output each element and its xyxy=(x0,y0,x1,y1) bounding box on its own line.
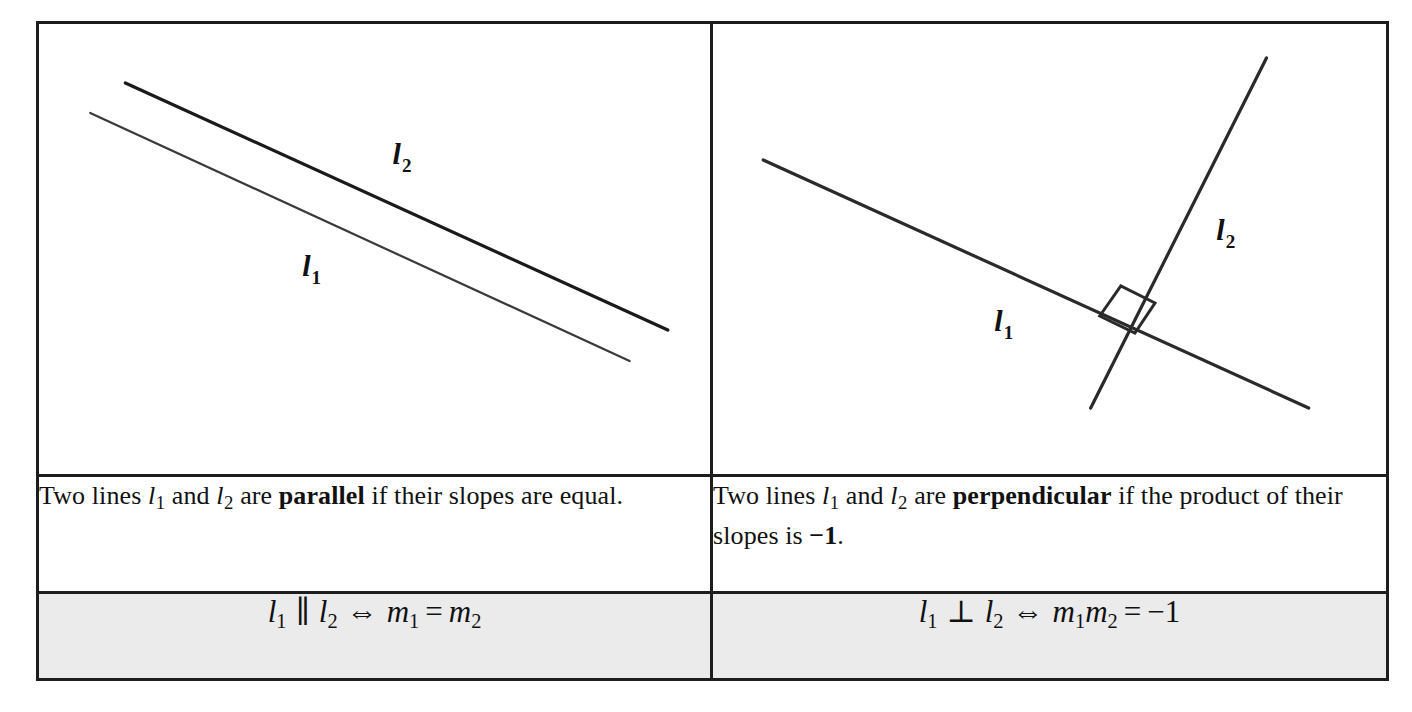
description-mid-1: and xyxy=(165,481,216,510)
description-var-l2: l2 xyxy=(890,481,907,510)
formula-right-line-sub: 2 xyxy=(993,610,1003,632)
formula-right-line: l2 xyxy=(319,594,338,629)
description-term-parallel: parallel xyxy=(279,481,365,510)
formula-equivalence-symbol: ⇔ xyxy=(338,594,387,629)
parallel-formula-cell: l1∥l2⇔m1=m2 xyxy=(38,593,712,680)
table-row-descriptions: Two lines l1 and l2 are parallel if thei… xyxy=(38,476,1388,593)
formula-left-line-sub: 1 xyxy=(927,610,937,632)
formula-slope-m1-sub: 1 xyxy=(409,610,419,632)
formula-slope-m2-base: m xyxy=(449,594,471,629)
formula-right-line-sub: 2 xyxy=(327,610,337,632)
formula-slope-m1-base: m xyxy=(387,594,409,629)
formula-slope-m2-sub: 2 xyxy=(471,610,481,632)
description-prefix: Two lines xyxy=(713,481,822,510)
line-label-l1: l1 xyxy=(994,304,1013,343)
description-var-l2-base: l xyxy=(890,481,897,510)
line-label-l1: l1 xyxy=(302,249,321,288)
formula-left-line-sub: 1 xyxy=(276,610,286,632)
formula-left-line-base: l xyxy=(268,594,277,629)
line-l1 xyxy=(763,160,1308,408)
formula-equivalence-symbol: ⇔ xyxy=(1004,594,1053,629)
perpendicular-formula-cell: l1⊥l2⇔m1m2=−1 xyxy=(712,593,1388,680)
formula-left-line: l1 xyxy=(919,594,938,629)
description-suffix: if their slopes are equal. xyxy=(365,481,623,510)
line-l2 xyxy=(125,83,667,330)
perpendicular-lines-figure-cell: l2 l1 xyxy=(712,23,1388,476)
line-l1 xyxy=(90,113,629,361)
parallel-lines-diagram: l2 l1 xyxy=(39,24,710,474)
description-var-l1-sub: 1 xyxy=(829,492,839,513)
formula-equals-symbol: = xyxy=(419,594,448,629)
description-var-l2-sub: 2 xyxy=(224,492,234,513)
parallel-perpendicular-comparison-table: l2 l1 l2 l1 Two lines xyxy=(36,21,1389,681)
description-mid-1: and xyxy=(839,481,890,510)
formula-equals-symbol: = xyxy=(1118,594,1147,629)
formula-slope-m2: m2 xyxy=(449,594,482,629)
description-var-l2-sub: 2 xyxy=(898,492,908,513)
perpendicular-description-text: Two lines l1 and l2 are perpendicular if… xyxy=(713,481,1343,550)
perpendicular-lines-diagram: l2 l1 xyxy=(713,24,1386,474)
page-root: l2 l1 l2 l1 Two lines xyxy=(0,0,1412,712)
parallel-formula: l1∥l2⇔m1=m2 xyxy=(39,594,710,632)
formula-slope-m1: m1 xyxy=(1053,594,1086,629)
formula-right-line: l2 xyxy=(985,594,1004,629)
line-label-l2: l2 xyxy=(393,137,412,176)
formula-left-line: l1 xyxy=(268,594,287,629)
parallel-lines-figure-cell: l2 l1 xyxy=(38,23,712,476)
formula-slope-m1-base: m xyxy=(1053,594,1075,629)
description-var-l2-base: l xyxy=(216,481,223,510)
description-value: −1 xyxy=(809,521,837,550)
description-var-l1: l1 xyxy=(148,481,165,510)
formula-slope-m2-sub: 2 xyxy=(1108,610,1118,632)
formula-slope-m1-sub: 1 xyxy=(1075,610,1085,632)
perpendicular-formula: l1⊥l2⇔m1m2=−1 xyxy=(713,594,1386,632)
description-period: . xyxy=(837,521,844,550)
parallel-description-text: Two lines l1 and l2 are parallel if thei… xyxy=(39,481,623,510)
description-prefix: Two lines xyxy=(39,481,148,510)
formula-slope-m2-base: m xyxy=(1085,594,1107,629)
parallel-description-cell: Two lines l1 and l2 are parallel if thei… xyxy=(38,476,712,593)
description-var-l2: l2 xyxy=(216,481,233,510)
formula-slope-m2: m2 xyxy=(1085,594,1118,629)
table-row-diagrams: l2 l1 l2 l1 xyxy=(38,23,1388,476)
description-var-l1: l1 xyxy=(822,481,839,510)
table-row-formulas: l1∥l2⇔m1=m2 l1⊥l2⇔m1m2=−1 xyxy=(38,593,1388,680)
description-mid-2: are xyxy=(234,481,279,510)
formula-relation-perpendicular-symbol: ⊥ xyxy=(938,594,985,629)
formula-relation-parallel-symbol: ∥ xyxy=(286,594,318,629)
line-l2 xyxy=(1091,58,1267,408)
formula-result-value: −1 xyxy=(1147,594,1180,629)
description-var-l1-sub: 1 xyxy=(155,492,165,513)
formula-slope-m1: m1 xyxy=(387,594,420,629)
perpendicular-description-cell: Two lines l1 and l2 are perpendicular if… xyxy=(712,476,1388,593)
description-term-perpendicular: perpendicular xyxy=(953,481,1112,510)
description-mid-2: are xyxy=(908,481,953,510)
line-label-l2: l2 xyxy=(1216,213,1235,252)
